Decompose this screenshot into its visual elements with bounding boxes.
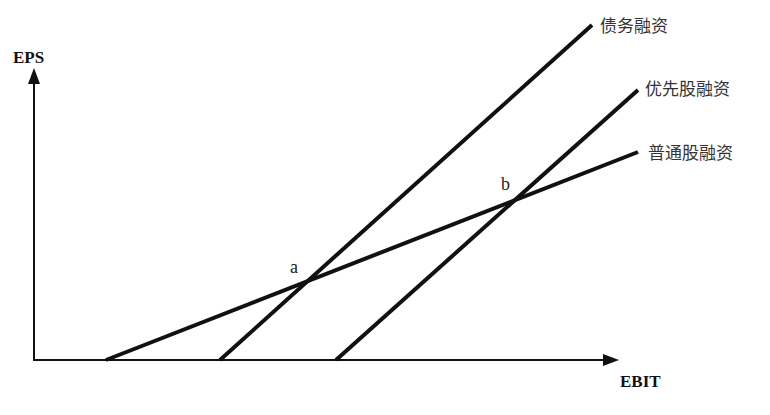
x-axis-arrow-icon	[603, 354, 619, 366]
preferred-financing-line	[336, 90, 638, 360]
ebit-eps-diagram: EPS EBIT a b 债务融资 优先股融资 普通股融资	[0, 0, 770, 415]
x-axis-label: EBIT	[620, 372, 661, 391]
y-axis-arrow-icon	[28, 68, 40, 84]
debt-financing-label: 债务融资	[600, 16, 668, 36]
common-financing-label: 普通股融资	[648, 143, 733, 163]
y-axis-label: EPS	[13, 48, 44, 67]
point-b-label: b	[501, 174, 510, 194]
point-a-label: a	[290, 257, 298, 277]
preferred-financing-label: 优先股融资	[645, 79, 730, 99]
diagram-svg: EPS EBIT a b 债务融资 优先股融资 普通股融资	[0, 0, 770, 415]
